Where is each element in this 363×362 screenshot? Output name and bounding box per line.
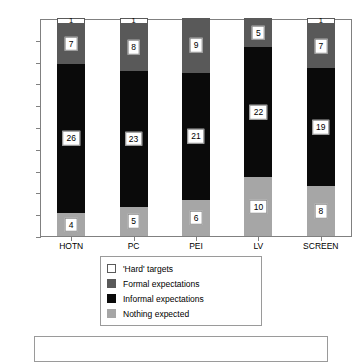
- legend-item: 'Hard' targets: [107, 261, 255, 276]
- bar-segment: 22: [244, 47, 272, 177]
- x-category-label-pei: PEI: [189, 241, 203, 251]
- bar-data-label: 8: [314, 204, 327, 219]
- white-swatch: [107, 264, 116, 273]
- bar-segment: 26: [57, 64, 85, 213]
- bar-data-label: 1: [67, 17, 75, 25]
- bar-pei: 6219: [182, 18, 210, 236]
- bar-data-label: 1: [317, 17, 325, 25]
- bar-data-label: 7: [314, 39, 327, 54]
- bar-data-label: 9: [190, 38, 203, 53]
- bar-segment: 9: [182, 18, 210, 73]
- bar-data-label: 8: [127, 40, 140, 55]
- legend-item: Informal expectations: [107, 291, 255, 306]
- x-category-label-pc: PC: [128, 241, 140, 251]
- bar-segment: 23: [120, 71, 148, 207]
- bar-segment: 6: [182, 200, 210, 236]
- bar-data-label: 26: [62, 131, 79, 146]
- dark-gray-swatch: [107, 279, 116, 288]
- bar-data-label: 7: [65, 37, 78, 52]
- legend-label: Nothing expected: [123, 309, 189, 319]
- bar-segment: 5: [120, 207, 148, 236]
- y-tick-mark: [36, 237, 41, 238]
- x-category-label-hotn: HOTN: [59, 241, 83, 251]
- caption-box: [34, 336, 328, 362]
- bar-data-label: 5: [252, 25, 265, 40]
- legend-label: 'Hard' targets: [123, 264, 173, 274]
- legend-item: Nothing expected: [107, 306, 255, 321]
- bar-segment: 4: [57, 213, 85, 236]
- x-category-label-screen: SCREEN: [303, 241, 338, 251]
- bar-data-label: 4: [65, 217, 78, 232]
- bar-segment: 10: [244, 177, 272, 236]
- bar-data-label: 6: [190, 211, 203, 226]
- plot-area: 426715238162191022581971: [40, 19, 352, 237]
- bar-segment: 1: [307, 18, 335, 24]
- bar-data-label: 21: [187, 129, 204, 144]
- chart-legend: 'Hard' targetsFormal expectationsInforma…: [100, 256, 262, 326]
- bar-segment: 1: [57, 18, 85, 24]
- bar-data-label: 1: [130, 17, 138, 25]
- y-axis: 0%10%20%30%40%50%60%70%80%90%100%: [0, 0, 40, 237]
- bar-data-label: 22: [250, 105, 267, 120]
- legend-item: Formal expectations: [107, 276, 255, 291]
- bar-hotn: 42671: [57, 18, 85, 236]
- bar-data-label: 5: [127, 214, 140, 229]
- legend-label: Formal expectations: [123, 279, 200, 289]
- bar-segment: 5: [244, 18, 272, 47]
- x-category-label-lv: LV: [254, 241, 264, 251]
- bar-segment: 1: [120, 18, 148, 24]
- bar-data-label: 10: [250, 199, 267, 214]
- bar-pc: 52381: [120, 18, 148, 236]
- light-gray-swatch: [107, 309, 116, 318]
- black-swatch: [107, 294, 116, 303]
- bar-data-label: 19: [312, 120, 329, 135]
- stacked-bar-chart: 0%10%20%30%40%50%60%70%80%90%100% 426715…: [0, 0, 363, 362]
- bar-segment: 7: [307, 24, 335, 68]
- bar-segment: 7: [57, 24, 85, 64]
- bar-segment: 8: [307, 186, 335, 236]
- legend-label: Informal expectations: [123, 294, 204, 304]
- bar-lv: 10225: [244, 18, 272, 236]
- bar-screen: 81971: [307, 18, 335, 236]
- bar-segment: 21: [182, 73, 210, 200]
- bar-data-label: 23: [125, 132, 142, 147]
- bar-segment: 8: [120, 24, 148, 71]
- bar-segment: 19: [307, 68, 335, 186]
- caption-text: [35, 337, 327, 343]
